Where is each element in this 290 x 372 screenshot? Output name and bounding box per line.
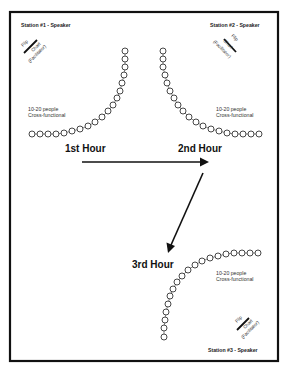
station-3: Station #3 - Speaker Flip Chart (Facilit… bbox=[161, 250, 261, 353]
seat-icon bbox=[99, 114, 105, 120]
seat-icon bbox=[117, 88, 123, 94]
seat-icon bbox=[29, 131, 35, 137]
seat-icon bbox=[105, 108, 111, 114]
seat-icon bbox=[224, 130, 230, 136]
seat-icon bbox=[208, 126, 214, 132]
seat-icon bbox=[167, 293, 173, 299]
seat-icon bbox=[163, 309, 169, 315]
seat-icon bbox=[239, 250, 245, 256]
seat-icon bbox=[160, 64, 166, 70]
flip-chart-label: Flip bbox=[230, 33, 239, 42]
seat-icon bbox=[171, 95, 177, 101]
seat-icon bbox=[248, 131, 254, 137]
seat-icon bbox=[179, 273, 185, 279]
station-1-title: Station #1 - Speaker bbox=[21, 22, 71, 28]
seat-icon bbox=[240, 131, 246, 137]
seat-icon bbox=[164, 80, 170, 86]
seat-icon bbox=[161, 334, 167, 340]
seat-icon bbox=[162, 72, 168, 78]
station-1-seats bbox=[29, 48, 128, 137]
seat-chain bbox=[32, 51, 125, 134]
seat-icon bbox=[167, 88, 173, 94]
hour-1-label: 1st Hour bbox=[65, 143, 106, 154]
seat-icon bbox=[186, 114, 192, 120]
arrow-hour2-to-hour3 bbox=[167, 173, 204, 253]
seat-icon bbox=[119, 80, 125, 86]
seat-icon bbox=[193, 119, 199, 125]
seat-icon bbox=[160, 48, 166, 54]
seat-icon bbox=[174, 279, 180, 285]
seat-icon bbox=[122, 48, 128, 54]
arrow-hour1-to-hour2 bbox=[82, 158, 209, 167]
seat-icon bbox=[161, 325, 167, 331]
flip-chart-label: Flip bbox=[20, 39, 29, 48]
station-3-group-type: Cross-functional bbox=[216, 276, 253, 282]
seat-icon bbox=[92, 119, 98, 125]
room-border bbox=[10, 12, 278, 361]
seat-icon bbox=[110, 102, 116, 108]
seat-icon bbox=[256, 131, 262, 137]
seat-icon bbox=[77, 126, 83, 132]
seat-icon bbox=[121, 72, 127, 78]
seat-icon bbox=[53, 131, 59, 137]
seat-icon bbox=[85, 123, 91, 129]
seat-icon bbox=[122, 64, 128, 70]
seat-icon bbox=[215, 253, 221, 259]
seat-icon bbox=[216, 128, 222, 134]
arrowhead-right-icon bbox=[200, 158, 209, 167]
seat-icon bbox=[185, 267, 191, 273]
flip-chart-label: Flip bbox=[234, 315, 243, 324]
seat-icon bbox=[199, 258, 205, 264]
station-2-group-type: Cross-functional bbox=[216, 112, 253, 118]
station-3-flip-chart: Flip Chart (Facilitator) bbox=[234, 315, 260, 340]
seat-icon bbox=[162, 317, 168, 323]
seat-icon bbox=[69, 128, 75, 134]
seat-icon bbox=[255, 250, 261, 256]
seat-icon bbox=[165, 301, 171, 307]
seat-icon bbox=[122, 56, 128, 62]
hour-3-label: 3rd Hour bbox=[132, 259, 174, 270]
seat-icon bbox=[232, 131, 238, 137]
seat-icon bbox=[231, 250, 237, 256]
station-1: Station #1 - Speaker Flip Chart (Facilit… bbox=[20, 22, 128, 137]
station-2-seats bbox=[160, 48, 262, 137]
seat-icon bbox=[170, 286, 176, 292]
seat-icon bbox=[37, 131, 43, 137]
station-2-flip-chart: Flip Chart (Facilitator) bbox=[212, 33, 239, 59]
seat-icon bbox=[180, 108, 186, 114]
seat-icon bbox=[175, 102, 181, 108]
rotation-diagram: Station #1 - Speaker Flip Chart (Facilit… bbox=[0, 0, 290, 372]
seat-icon bbox=[160, 56, 166, 62]
seat-icon bbox=[45, 131, 51, 137]
seat-icon bbox=[114, 95, 120, 101]
station-3-title: Station #3 - Speaker bbox=[208, 347, 258, 353]
seat-chain bbox=[163, 51, 259, 134]
seat-icon bbox=[207, 255, 213, 261]
seat-icon bbox=[200, 123, 206, 129]
seat-icon bbox=[192, 262, 198, 268]
station-2-title: Station #2 - Speaker bbox=[210, 22, 260, 28]
station-2: Station #2 - Speaker Flip Chart (Facilit… bbox=[160, 22, 262, 137]
hour-2-label: 2nd Hour bbox=[178, 143, 222, 154]
seat-icon bbox=[247, 250, 253, 256]
seat-icon bbox=[223, 251, 229, 257]
seat-icon bbox=[61, 130, 67, 136]
station-1-group-type: Cross-functional bbox=[28, 112, 65, 118]
station-1-flip-chart: Flip Chart (Facilitator) bbox=[20, 39, 47, 64]
